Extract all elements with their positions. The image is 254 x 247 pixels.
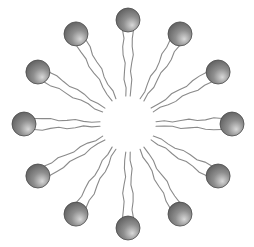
hydrophobic-tail [153, 136, 212, 166]
phospholipid-molecule [156, 112, 244, 136]
hydrophobic-tail [140, 40, 170, 99]
phospholipid-molecule [116, 152, 140, 240]
hydrophobic-tail [153, 82, 212, 112]
hydrophobic-tail [86, 149, 116, 208]
hydrophilic-head [116, 216, 140, 240]
hydrophobic-tail [156, 118, 222, 122]
phospholipid-molecule [140, 22, 192, 101]
phospholipid-molecule [140, 147, 192, 226]
hydrophobic-tail [34, 119, 100, 123]
phospholipid-molecule [12, 112, 100, 136]
hydrophobic-tail [130, 30, 133, 96]
phospholipid-molecule [151, 136, 230, 188]
hydrophobic-tail [151, 140, 207, 176]
hydrophobic-core [102, 98, 154, 150]
phospholipid-molecule [151, 60, 230, 112]
hydrophilic-head [64, 22, 88, 46]
hydrophilic-head [26, 164, 50, 188]
hydrophilic-head [116, 8, 140, 32]
hydrophobic-tail [123, 30, 127, 96]
hydrophobic-tail [156, 126, 222, 130]
phospholipid-molecule [26, 60, 105, 112]
hydrophilic-head [220, 112, 244, 136]
micelle-diagram [0, 0, 254, 247]
hydrophobic-tail [44, 82, 103, 112]
hydrophilic-head [26, 60, 50, 84]
hydrophilic-head [206, 164, 230, 188]
phospholipid-molecule [64, 147, 116, 226]
hydrophilic-head [64, 202, 88, 226]
hydrophobic-tail [34, 126, 100, 130]
hydrophobic-tail [49, 72, 105, 108]
hydrophilic-head [206, 60, 230, 84]
hydrophobic-tail [123, 152, 126, 218]
phospholipid-molecule [64, 22, 116, 101]
hydrophobic-tail [130, 152, 133, 218]
hydrophilic-head [168, 202, 192, 226]
hydrophilic-head [168, 22, 192, 46]
phospholipid-molecule [116, 8, 140, 96]
phospholipid-molecule [26, 136, 105, 188]
hydrophilic-head [12, 112, 36, 136]
hydrophobic-tail [44, 136, 103, 166]
